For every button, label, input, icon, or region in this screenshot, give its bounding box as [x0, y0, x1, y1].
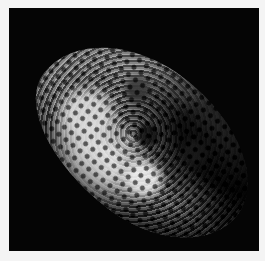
crater-texture	[9, 8, 259, 251]
cratered-moon	[9, 8, 259, 251]
space-photo	[9, 8, 259, 251]
